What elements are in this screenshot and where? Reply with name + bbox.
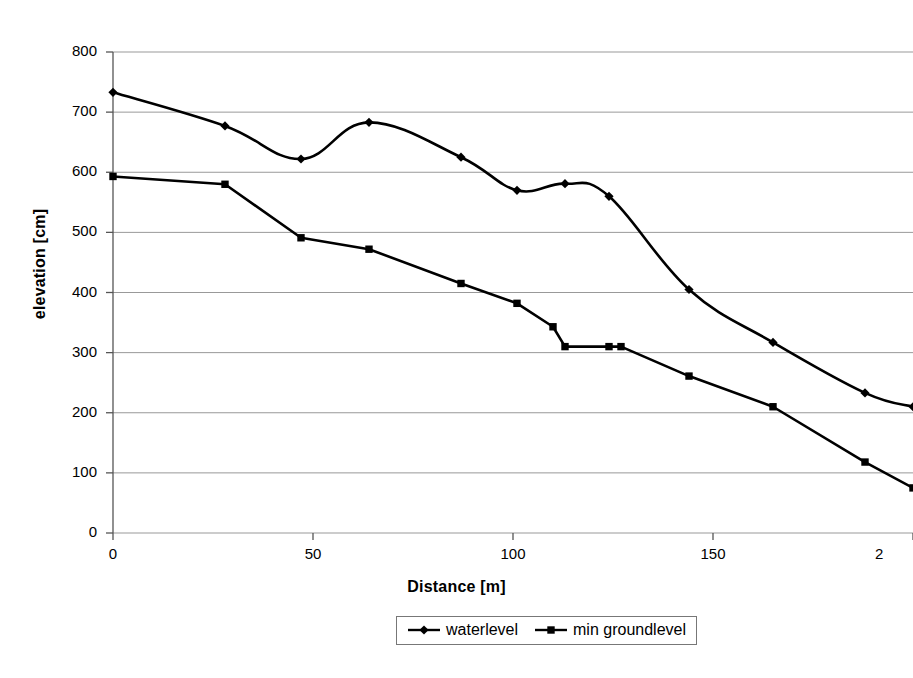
data-point-marker — [560, 179, 569, 188]
plot-area — [0, 0, 913, 678]
y-axis-title: elevation [cm] — [31, 164, 49, 364]
legend-item-min-groundlevel: min groundlevel — [534, 621, 686, 639]
x-axis-title: Distance [m] — [0, 578, 913, 596]
y-tick-label: 300 — [45, 343, 97, 360]
x-tick-label: 100 — [483, 545, 543, 562]
data-point-marker — [861, 458, 868, 465]
data-point-marker — [364, 118, 373, 127]
y-tick-label: 0 — [45, 523, 97, 540]
data-point-marker — [617, 343, 624, 350]
data-point-marker — [908, 402, 913, 411]
y-tick-label: 800 — [45, 42, 97, 59]
data-point-marker — [457, 280, 464, 287]
data-point-marker — [547, 626, 554, 633]
legend-item-waterlevel: waterlevel — [407, 621, 518, 639]
data-point-marker — [513, 300, 520, 307]
data-point-marker — [296, 154, 305, 163]
x-tick-label: 150 — [683, 545, 743, 562]
y-tick-label: 200 — [45, 403, 97, 420]
x-tick-label: 50 — [283, 545, 343, 562]
series-line — [113, 176, 913, 487]
series-waterlevel — [108, 88, 913, 412]
data-point-marker — [108, 88, 117, 97]
y-tick-label: 400 — [45, 283, 97, 300]
data-point-marker — [860, 388, 869, 397]
data-point-marker — [297, 234, 304, 241]
legend-marker-square-icon — [534, 622, 568, 638]
data-point-marker — [909, 484, 913, 491]
data-point-marker — [221, 181, 228, 188]
data-point-marker — [769, 403, 776, 410]
y-tick-label: 500 — [45, 222, 97, 239]
chart-figure: elevation [cm] Distance [m] 010020030040… — [0, 0, 913, 678]
data-point-marker — [109, 173, 116, 180]
x-tick-label: 2 — [875, 545, 913, 562]
data-point-marker — [365, 246, 372, 253]
data-point-marker — [456, 153, 465, 162]
data-point-marker — [549, 323, 556, 330]
y-tick-label: 700 — [45, 102, 97, 119]
series-line — [113, 92, 913, 406]
data-point-marker — [419, 625, 428, 634]
data-point-marker — [512, 186, 521, 195]
data-point-marker — [605, 343, 612, 350]
data-point-marker — [685, 372, 692, 379]
chart-legend: waterlevelmin groundlevel — [396, 616, 697, 645]
x-tick-label: 0 — [83, 545, 143, 562]
legend-label: waterlevel — [446, 621, 518, 639]
data-point-marker — [220, 121, 229, 130]
legend-marker-diamond-icon — [407, 622, 441, 638]
y-tick-label: 600 — [45, 162, 97, 179]
series-min-groundlevel — [109, 173, 913, 492]
legend-label: min groundlevel — [573, 621, 686, 639]
y-tick-label: 100 — [45, 463, 97, 480]
data-point-marker — [561, 343, 568, 350]
